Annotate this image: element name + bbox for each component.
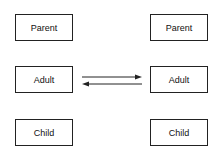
arrow-left [82,82,142,87]
arrow-right [82,75,142,80]
connectors [0,0,221,155]
